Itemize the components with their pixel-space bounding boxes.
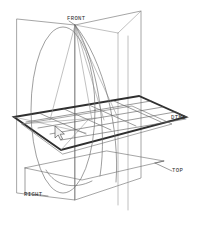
dtm1-inner-plane <box>22 106 172 154</box>
cad-viewport[interactable]: FRONT DTM1 TOP RIGHT <box>0 0 202 232</box>
datum-plane-front[interactable] <box>17 19 75 200</box>
label-right-text: RIGHT <box>24 191 43 198</box>
label-front-text: FRONT <box>67 15 86 22</box>
label-top-text: TOP <box>172 167 183 174</box>
cad-wireframe-canvas[interactable]: FRONT DTM1 TOP RIGHT <box>0 0 202 232</box>
datum-plane-secondary-vertical[interactable] <box>75 11 141 210</box>
datum-plane-top[interactable] <box>25 151 164 180</box>
label-dtm1-text: DTM1 <box>171 114 186 121</box>
label-dtm1[interactable]: DTM1 <box>171 112 186 121</box>
feature-curve-ellipse[interactable] <box>31 27 95 193</box>
label-right[interactable]: RIGHT <box>24 168 48 198</box>
label-top[interactable]: TOP <box>155 161 183 174</box>
